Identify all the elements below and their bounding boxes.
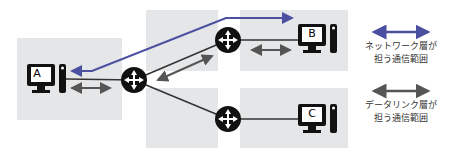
pc-c-label: C (302, 107, 322, 120)
network-diagram (0, 0, 454, 153)
router-2-icon (215, 27, 241, 53)
legend-network: ネットワーク層が 担う通信範囲 (351, 40, 451, 66)
pc-a-label: A (27, 67, 47, 80)
router-1-icon (121, 67, 147, 93)
legend-datalink-line1: データリンク層が (351, 99, 451, 112)
router-3-icon (215, 106, 241, 132)
legend-datalink: データリンク層が 担う通信範囲 (351, 99, 451, 125)
pc-b-label: B (302, 27, 322, 40)
legend-datalink-line2: 担う通信範囲 (351, 112, 451, 125)
legend-network-line2: 担う通信範囲 (351, 53, 451, 66)
legend-network-line1: ネットワーク層が (351, 40, 451, 53)
